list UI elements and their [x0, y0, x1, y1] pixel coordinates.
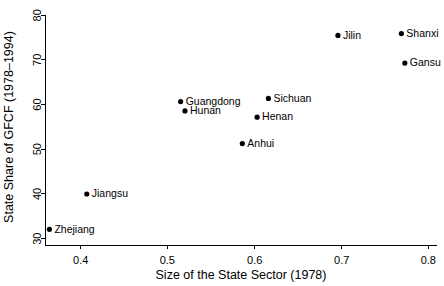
plot-canvas: 304050607080 0.40.50.60.70.8 ZhejiangJia… [0, 0, 444, 286]
y-axis: 304050607080 [31, 9, 45, 245]
x-tick-label: 0.4 [73, 254, 88, 266]
y-tick-label: 80 [31, 9, 43, 21]
y-axis-ticks: 304050607080 [31, 9, 45, 245]
x-tick-label: 0.6 [247, 254, 262, 266]
x-tick-label: 0.5 [160, 254, 175, 266]
data-point[interactable]: Zhejiang [47, 223, 95, 235]
data-point-group: ZhejiangJiangsuGuangdongHunanAnhuiHenanS… [47, 27, 441, 235]
data-point-marker[interactable] [335, 33, 340, 38]
data-point-marker[interactable] [255, 115, 260, 120]
data-point-label: Gansu [410, 56, 441, 68]
y-tick-label: 30 [31, 233, 43, 245]
data-point-label: Anhui [247, 137, 274, 149]
data-point-marker[interactable] [399, 31, 404, 36]
data-point-label: Jiangsu [92, 187, 128, 199]
data-point[interactable]: Sichuan [266, 92, 312, 104]
y-tick-label: 60 [31, 98, 43, 110]
x-tick-label: 0.8 [421, 254, 436, 266]
data-point-marker[interactable] [402, 61, 407, 66]
scatter-plot-figure: 304050607080 0.40.50.60.70.8 ZhejiangJia… [0, 0, 444, 286]
data-point-marker[interactable] [84, 191, 89, 196]
data-point-label: Hunan [190, 104, 221, 116]
x-axis: 0.40.50.60.70.8 [45, 245, 437, 266]
data-point-label: Shanxi [406, 27, 438, 39]
data-point-label: Jilin [343, 29, 361, 41]
y-tick-label: 70 [31, 54, 43, 66]
y-tick-label: 40 [31, 188, 43, 200]
y-tick-label: 50 [31, 143, 43, 155]
data-point-label: Sichuan [273, 92, 311, 104]
data-point[interactable]: Shanxi [399, 27, 439, 39]
data-point[interactable]: Jiangsu [84, 187, 128, 199]
data-point[interactable]: Henan [255, 110, 294, 122]
data-point-marker[interactable] [178, 99, 183, 104]
data-point-marker[interactable] [182, 108, 187, 113]
y-axis-title: State Share of GFCF (1978–1994) [2, 31, 16, 223]
x-axis-title: Size of the State Sector (1978) [156, 268, 327, 282]
x-axis-ticks: 0.40.50.60.70.8 [73, 245, 436, 266]
data-point-label: Zhejiang [54, 223, 94, 235]
data-point-marker[interactable] [47, 227, 52, 232]
data-point-marker[interactable] [240, 141, 245, 146]
data-point[interactable]: Anhui [240, 137, 274, 149]
data-point-label: Henan [262, 110, 293, 122]
data-point[interactable]: Jilin [335, 29, 361, 41]
x-tick-label: 0.7 [334, 254, 349, 266]
data-point[interactable]: Gansu [402, 56, 441, 68]
data-point-marker[interactable] [266, 96, 271, 101]
